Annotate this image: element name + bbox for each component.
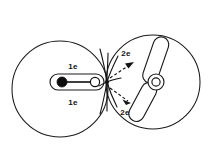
lower-arrow-head <box>123 100 132 106</box>
bent-rotor <box>126 35 171 124</box>
burst-core <box>105 80 109 84</box>
capsule-rod <box>50 74 104 90</box>
burst-ray-4 <box>107 78 121 82</box>
rotor-hub-inner <box>152 78 160 86</box>
burst-ray-5 <box>107 82 117 107</box>
burst-ray-2 <box>107 53 108 82</box>
label-right-bottom: 2e <box>120 108 130 117</box>
upper-arrow-head <box>125 62 134 69</box>
diagram-canvas: 1e 1e 2e 2e <box>0 0 214 155</box>
label-left-top: 1e <box>68 62 78 71</box>
diagram-svg: 1e 1e 2e 2e <box>0 0 214 155</box>
label-left-bottom: 1e <box>68 98 78 107</box>
burst-ray-3 <box>107 56 118 82</box>
lower-energy-arrow <box>110 88 131 105</box>
open-node <box>90 77 99 86</box>
label-right-top: 2e <box>121 49 131 58</box>
filled-node <box>57 77 67 87</box>
